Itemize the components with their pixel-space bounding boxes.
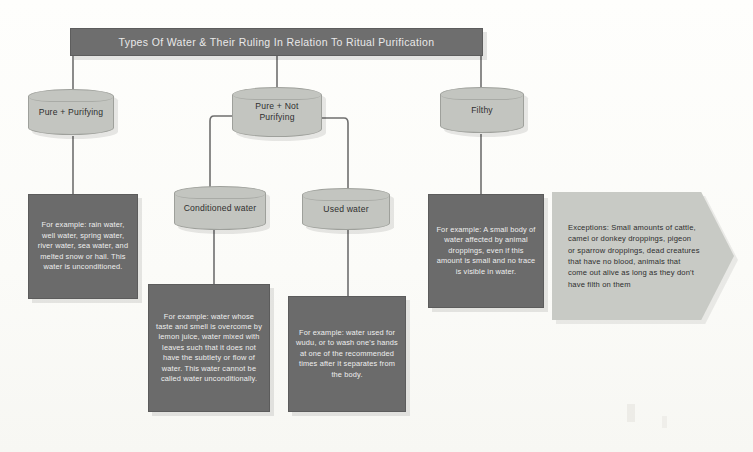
callout-exceptions-text: Exceptions: Small amounts of cattle, cam… (552, 216, 734, 296)
desc-filthy-text: For example: A small body of water affec… (436, 225, 536, 277)
desc-conditioned-water-text: For example: water whose taste and smell… (156, 312, 262, 385)
diagram-title-banner: Types Of Water & Their Ruling In Relatio… (70, 28, 483, 56)
flowchart-canvas: Types Of Water & Their Ruling In Relatio… (0, 0, 753, 452)
node-pure-purifying-label: Pure + Purifying (34, 107, 109, 118)
node-pure-not-purifying-label: Pure + Not Purifying (233, 101, 321, 123)
callout-exceptions: Exceptions: Small amounts of cattle, cam… (552, 192, 734, 320)
node-filthy-label: Filthy (466, 105, 498, 116)
node-pure-purifying[interactable]: Pure + Purifying (28, 89, 114, 135)
node-used-water[interactable]: Used water (302, 188, 390, 230)
node-filthy[interactable]: Filthy (440, 87, 524, 133)
node-used-water-label: Used water (318, 204, 373, 215)
node-conditioned-water-label: Conditioned water (179, 203, 262, 214)
node-pure-not-purifying[interactable]: Pure + Not Purifying (232, 87, 322, 137)
desc-pure-purifying: For example: rain water, well water, spr… (28, 194, 138, 299)
desc-used-water: For example: water used for wudu, or to … (288, 296, 406, 412)
page-title: Types Of Water & Their Ruling In Relatio… (119, 36, 435, 48)
desc-used-water-text: For example: water used for wudu, or to … (296, 328, 398, 380)
desc-pure-purifying-text: For example: rain water, well water, spr… (36, 220, 130, 272)
desc-filthy: For example: A small body of water affec… (428, 194, 544, 308)
desc-conditioned-water: For example: water whose taste and smell… (148, 284, 270, 412)
node-conditioned-water[interactable]: Conditioned water (174, 186, 266, 230)
